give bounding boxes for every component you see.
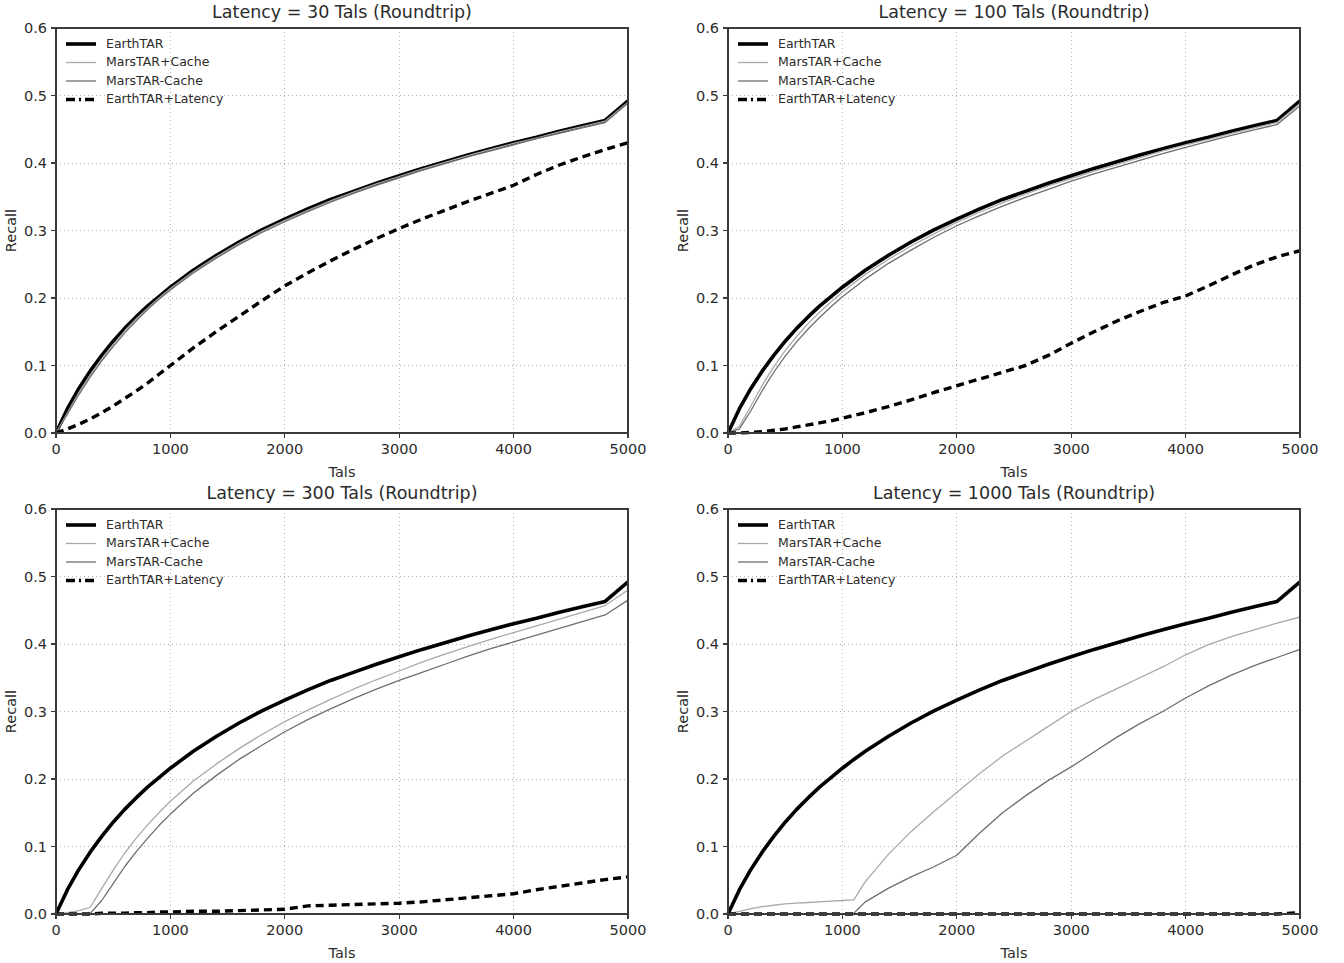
legend-label: MarsTAR+Cache (778, 54, 882, 69)
legend-label: MarsTAR-Cache (106, 554, 203, 569)
x-tick-label: 5000 (610, 441, 647, 457)
x-tick-label: 5000 (1282, 441, 1319, 457)
y-tick-label: 0.6 (24, 20, 47, 36)
chart-panel: Latency = 30 Tals (Roundtrip)01000200030… (0, 0, 672, 481)
x-tick-label: 3000 (1053, 922, 1090, 938)
x-tick-label: 3000 (381, 922, 418, 938)
legend-label: EarthTAR+Latency (106, 91, 224, 106)
x-axis-label: Tals (1000, 464, 1028, 480)
series-group (56, 582, 628, 914)
series-line-earthtar-latency (56, 143, 628, 433)
y-tick-label: 0.1 (696, 358, 719, 374)
y-tick-label: 0.2 (24, 290, 47, 306)
x-tick-label: 0 (51, 441, 60, 457)
y-tick-label: 0.2 (696, 290, 719, 306)
plot-frame (56, 509, 628, 914)
x-tick-label: 3000 (1053, 441, 1090, 457)
legend: EarthTARMarsTAR+CacheMarsTAR-CacheEarthT… (738, 517, 896, 588)
y-tick-label: 0.4 (24, 155, 47, 171)
series-line-earthtar (56, 101, 628, 433)
y-tick-label: 0.4 (696, 155, 719, 171)
series-line-earthtar-latency (56, 877, 628, 914)
x-tick-label: 2000 (266, 441, 303, 457)
x-tick-label: 5000 (1282, 922, 1319, 938)
y-tick-label: 0.2 (24, 771, 47, 787)
x-axis-label: Tals (1000, 945, 1028, 961)
x-tick-label: 2000 (266, 922, 303, 938)
y-axis-label: Recall (3, 209, 19, 252)
series-group (56, 101, 628, 433)
x-tick-label: 2000 (938, 922, 975, 938)
series-group (728, 101, 1300, 433)
y-tick-label: 0.0 (24, 906, 47, 922)
panel-title: Latency = 100 Tals (Roundtrip) (878, 2, 1149, 22)
chart-panel: Latency = 100 Tals (Roundtrip)0100020003… (672, 0, 1344, 481)
chart-svg: Latency = 1000 Tals (Roundtrip)010002000… (672, 481, 1344, 962)
x-axis-label: Tals (328, 464, 356, 480)
chart-panel: Latency = 300 Tals (Roundtrip)0100020003… (0, 481, 672, 962)
x-axis-label: Tals (328, 945, 356, 961)
x-tick-label: 0 (723, 922, 732, 938)
chart-svg: Latency = 300 Tals (Roundtrip)0100020003… (0, 481, 672, 962)
series-line-marstar-cache (728, 649, 1300, 914)
x-tick-label: 4000 (1167, 441, 1204, 457)
plot-frame (728, 28, 1300, 433)
legend-label: MarsTAR-Cache (778, 73, 875, 88)
panel-title: Latency = 30 Tals (Roundtrip) (212, 2, 472, 22)
x-tick-label: 3000 (381, 441, 418, 457)
y-tick-label: 0.3 (24, 223, 47, 239)
legend-label: EarthTAR (106, 517, 164, 532)
legend: EarthTARMarsTAR+CacheMarsTAR-CacheEarthT… (66, 36, 224, 107)
y-axis-label: Recall (675, 209, 691, 252)
panel-title: Latency = 300 Tals (Roundtrip) (206, 483, 477, 503)
y-tick-label: 0.6 (696, 501, 719, 517)
x-tick-label: 4000 (1167, 922, 1204, 938)
series-line-marstar-cache (728, 617, 1300, 914)
y-tick-label: 0.1 (24, 358, 47, 374)
x-tick-label: 1000 (824, 441, 861, 457)
legend: EarthTARMarsTAR+CacheMarsTAR-CacheEarthT… (66, 517, 224, 588)
y-tick-label: 0.4 (696, 636, 719, 652)
plot-frame (728, 509, 1300, 914)
y-tick-label: 0.6 (24, 501, 47, 517)
x-tick-label: 2000 (938, 441, 975, 457)
series-line-marstar-cache (56, 590, 628, 914)
legend-label: EarthTAR (106, 36, 164, 51)
y-tick-label: 0.3 (24, 704, 47, 720)
series-line-earthtar (728, 101, 1300, 433)
y-tick-label: 0.0 (24, 425, 47, 441)
legend-label: MarsTAR-Cache (778, 554, 875, 569)
y-tick-label: 0.5 (24, 88, 47, 104)
y-tick-label: 0.5 (696, 88, 719, 104)
legend-label: MarsTAR+Cache (106, 535, 210, 550)
x-tick-label: 4000 (495, 922, 532, 938)
y-tick-label: 0.5 (696, 569, 719, 585)
y-tick-label: 0.3 (696, 704, 719, 720)
y-tick-label: 0.1 (696, 839, 719, 855)
x-tick-label: 0 (723, 441, 732, 457)
legend-label: MarsTAR+Cache (778, 535, 882, 550)
x-tick-label: 1000 (152, 922, 189, 938)
x-tick-label: 0 (51, 922, 60, 938)
series-group (728, 582, 1300, 914)
y-tick-label: 0.0 (696, 906, 719, 922)
y-tick-label: 0.2 (696, 771, 719, 787)
legend: EarthTARMarsTAR+CacheMarsTAR-CacheEarthT… (738, 36, 896, 107)
legend-label: EarthTAR+Latency (778, 91, 896, 106)
legend-label: EarthTAR (778, 517, 836, 532)
y-tick-label: 0.0 (696, 425, 719, 441)
x-tick-label: 5000 (610, 922, 647, 938)
x-tick-label: 1000 (824, 922, 861, 938)
y-tick-label: 0.4 (24, 636, 47, 652)
panel-title: Latency = 1000 Tals (Roundtrip) (873, 483, 1155, 503)
series-line-marstar-cache (56, 600, 628, 914)
legend-label: MarsTAR-Cache (106, 73, 203, 88)
series-line-marstar-cache (728, 106, 1300, 433)
x-tick-label: 4000 (495, 441, 532, 457)
y-tick-label: 0.1 (24, 839, 47, 855)
series-line-earthtar (56, 582, 628, 914)
chart-svg: Latency = 100 Tals (Roundtrip)0100020003… (672, 0, 1344, 481)
series-line-marstar-cache (56, 103, 628, 433)
chart-panel: Latency = 1000 Tals (Roundtrip)010002000… (672, 481, 1344, 962)
legend-label: EarthTAR+Latency (106, 572, 224, 587)
